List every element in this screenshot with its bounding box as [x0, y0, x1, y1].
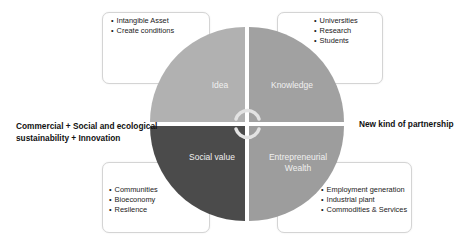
quadrant-social-value	[150, 126, 245, 221]
left-label-line: Commercial + Social and ecological	[16, 120, 157, 132]
cycle-arrows-icon	[236, 110, 259, 137]
left-label-line: sustainability + Innovation	[16, 132, 157, 144]
left-label: Commercial + Social and ecological susta…	[16, 120, 157, 144]
quadrant-label-line: Wealth	[258, 163, 338, 174]
quadrant-idea	[150, 27, 245, 122]
quadrant-label-social-value: Social value	[180, 152, 244, 163]
quadrant-label-line: Entrepreneurial	[258, 152, 338, 163]
right-label: New kind of partnership	[359, 118, 454, 130]
quadrant-label-knowledge: Knowledge	[262, 80, 322, 91]
quadrant-knowledge	[249, 27, 344, 122]
quadrant-label-entrepreneurial-wealth: Entrepreneurial Wealth	[258, 152, 338, 174]
quadrant-label-idea: Idea	[200, 80, 240, 91]
